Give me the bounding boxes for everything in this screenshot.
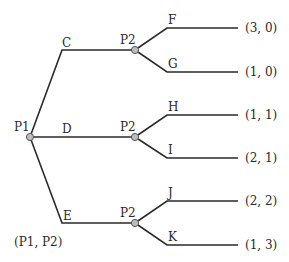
p1-root-node <box>26 133 33 140</box>
game-tree-diagram: CDEF(3, 0)G(1, 0)H(1, 1)I(2, 1)J(2, 2)K(… <box>0 0 289 262</box>
action-label-i: I <box>168 144 173 156</box>
p2-decision-node <box>131 219 138 226</box>
action-label-d: D <box>62 123 72 135</box>
game-tree-edges <box>0 0 289 262</box>
player-label-p1: P1 <box>14 121 30 133</box>
action-label-j: J <box>168 187 173 199</box>
action-label-k: K <box>168 231 177 243</box>
action-label-c: C <box>62 37 71 49</box>
payoff-f: (3, 0) <box>245 22 277 34</box>
edge-k <box>135 223 238 245</box>
payoff-k: (1, 3) <box>245 239 277 251</box>
payoff-h: (1, 1) <box>245 109 277 121</box>
action-label-e: E <box>63 210 72 222</box>
payoff-i: (2, 1) <box>245 152 277 164</box>
edge-f <box>135 28 238 50</box>
action-label-f: F <box>168 14 176 26</box>
player-label-p2: P2 <box>120 34 136 46</box>
p2-decision-node <box>131 133 138 140</box>
edge-j <box>135 201 238 223</box>
p2-decision-node <box>131 46 138 53</box>
edge-g <box>135 50 238 72</box>
payoff-legend: (P1, P2) <box>14 236 62 248</box>
payoff-g: (1, 0) <box>245 66 277 78</box>
player-label-p2: P2 <box>120 121 136 133</box>
action-label-g: G <box>168 58 178 70</box>
edge-h <box>135 115 238 137</box>
edge-i <box>135 137 238 158</box>
action-label-h: H <box>168 101 178 113</box>
player-label-p2: P2 <box>120 207 136 219</box>
payoff-j: (2, 2) <box>245 195 277 207</box>
